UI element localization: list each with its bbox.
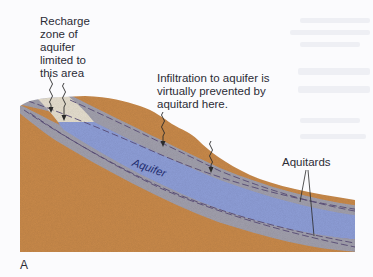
aquitards-label: Aquitards bbox=[282, 156, 331, 169]
infiltration-label: Infiltration to aquifer is virtually pre… bbox=[157, 72, 270, 111]
panel-letter: A bbox=[20, 258, 28, 272]
recharge-zone-label: Recharge zone of aquifer limited to this… bbox=[40, 15, 90, 80]
